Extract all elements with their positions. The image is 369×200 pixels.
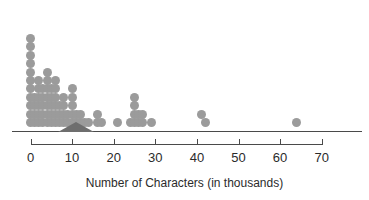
x-axis-tick-label: 30 (140, 150, 170, 166)
data-dot (138, 110, 147, 119)
data-dot (201, 118, 210, 127)
data-dot (26, 51, 35, 60)
x-axis-tick (280, 139, 281, 145)
x-axis-end-cap (322, 139, 323, 145)
data-dot (26, 42, 35, 51)
data-dot (147, 118, 156, 127)
balance-point-triangle-marker (58, 122, 94, 132)
x-axis-tick-label: 50 (224, 150, 254, 166)
data-dot (51, 84, 60, 93)
data-dot (130, 93, 139, 102)
data-dot (97, 118, 106, 127)
x-axis-tick-label: 0 (16, 150, 46, 166)
x-axis-tick-label: 40 (182, 150, 212, 166)
data-dot (113, 118, 122, 127)
x-axis-tick-label: 20 (99, 150, 129, 166)
data-dot (68, 93, 77, 102)
data-dot (68, 101, 77, 110)
x-axis-tick (239, 139, 240, 145)
data-dot (59, 93, 68, 102)
data-dot (26, 34, 35, 43)
data-dot (130, 101, 139, 110)
x-axis-tick (197, 139, 198, 145)
x-axis-start-cap (31, 139, 32, 145)
data-dot (59, 101, 68, 110)
x-axis-tick (72, 139, 73, 145)
data-dot (292, 118, 301, 127)
data-dot (26, 68, 35, 77)
x-axis-tick (114, 139, 115, 145)
x-axis-title: Number of Characters (in thousands) (0, 175, 369, 191)
x-axis-tick-label: 10 (57, 150, 87, 166)
x-axis-tick (155, 139, 156, 145)
x-axis: 010203040506070 (0, 136, 369, 166)
data-dot (68, 84, 77, 93)
data-dot (138, 118, 147, 127)
x-axis-tick-label: 70 (307, 150, 337, 166)
data-dot (26, 59, 35, 68)
plot-area (0, 0, 369, 132)
data-dot (43, 68, 52, 77)
data-dot (51, 76, 60, 85)
x-axis-tick-label: 60 (265, 150, 295, 166)
dot-plot-figure: 010203040506070 Number of Characters (in… (0, 0, 369, 200)
x-axis-line (31, 144, 322, 145)
